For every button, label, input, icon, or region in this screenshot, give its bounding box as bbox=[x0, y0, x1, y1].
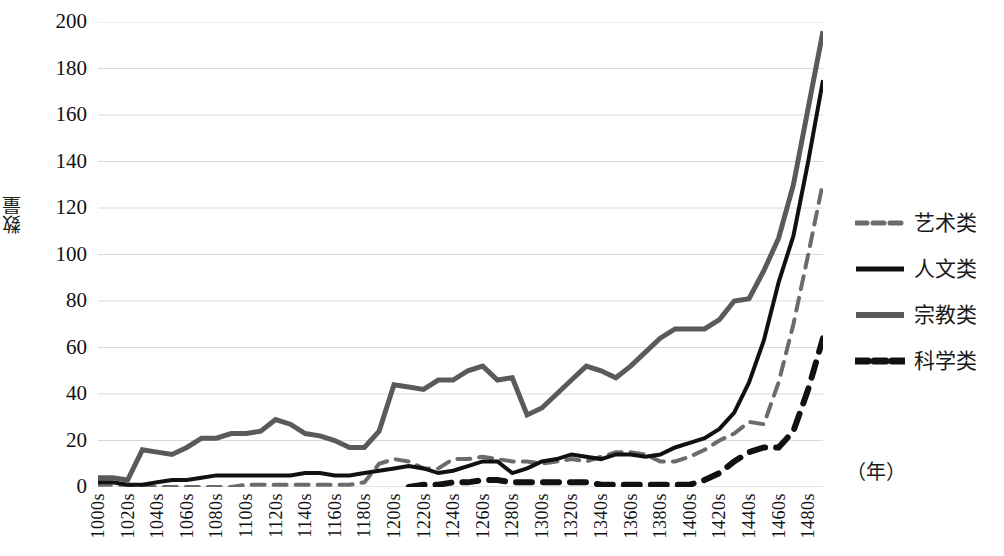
legend-item-humanities: 人文类 bbox=[855, 246, 1000, 292]
x-tick-label: 1420s bbox=[710, 493, 728, 539]
legend-item-religion: 宗教类 bbox=[855, 292, 1000, 338]
x-tick-label: 1160s bbox=[326, 493, 344, 538]
legend-label-science: 科学类 bbox=[914, 351, 977, 372]
x-tick-label: 1120s bbox=[267, 493, 285, 538]
x-tick-label: 1200s bbox=[385, 493, 403, 539]
legend-swatch-humanities bbox=[855, 262, 905, 276]
x-tick-label: 1240s bbox=[444, 493, 462, 539]
x-tick-label: 1400s bbox=[681, 493, 699, 539]
x-tick-label: 1260s bbox=[474, 493, 492, 539]
chart-legend: 艺术类 人文类 宗教类 科学类 bbox=[855, 200, 1000, 384]
legend-item-art: 艺术类 bbox=[855, 200, 1000, 246]
x-tick-label: 1460s bbox=[770, 493, 788, 539]
x-tick-label: 1280s bbox=[503, 493, 521, 539]
x-tick-label: 1140s bbox=[296, 493, 314, 538]
x-tick-label: 1060s bbox=[178, 493, 196, 539]
x-tick-label: 1360s bbox=[622, 493, 640, 539]
x-tick-label: 1320s bbox=[562, 493, 580, 539]
legend-label-religion: 宗教类 bbox=[914, 305, 977, 326]
x-tick-label: 1440s bbox=[740, 493, 758, 539]
x-tick-label: 1220s bbox=[415, 493, 433, 539]
x-tick-label: 1340s bbox=[592, 493, 610, 539]
x-tick-label: 1380s bbox=[651, 493, 669, 539]
x-tick-label: 1180s bbox=[355, 493, 373, 538]
x-tick-label: 1300s bbox=[533, 493, 551, 539]
x-tick-label: 1020s bbox=[119, 493, 137, 539]
legend-swatch-art bbox=[855, 216, 905, 230]
line-chart: 数量 200180160140120100806040200 1000s1020… bbox=[0, 0, 1004, 556]
legend-item-science: 科学类 bbox=[855, 338, 1000, 384]
legend-label-art: 艺术类 bbox=[914, 213, 977, 234]
legend-swatch-science bbox=[855, 354, 905, 368]
x-tick-label: 1040s bbox=[148, 493, 166, 539]
legend-swatch-religion bbox=[855, 308, 905, 322]
x-tick-label: 1000s bbox=[89, 493, 107, 539]
x-tick-label: 1480s bbox=[799, 493, 817, 539]
legend-label-humanities: 人文类 bbox=[914, 259, 977, 280]
x-tick-label: 1080s bbox=[207, 493, 225, 539]
x-tick-label: 1100s bbox=[237, 493, 255, 538]
x-axis-note: （年） bbox=[846, 462, 906, 482]
